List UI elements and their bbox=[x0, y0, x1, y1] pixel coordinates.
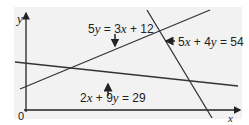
equation-label-5x: 5x + 4y = 54 bbox=[178, 35, 244, 48]
equation-label-2x: 2x + 9y = 29 bbox=[80, 91, 146, 104]
line-5x-4y-54 bbox=[147, 10, 212, 118]
graph-canvas bbox=[0, 0, 249, 125]
y-axis-label: y bbox=[17, 12, 23, 25]
x-axis-label: x bbox=[228, 113, 233, 124]
line-2x-9y-29 bbox=[15, 62, 238, 86]
origin-label: 0 bbox=[18, 111, 24, 122]
equation-label-5y: 5y = 3x + 12 bbox=[88, 22, 154, 35]
